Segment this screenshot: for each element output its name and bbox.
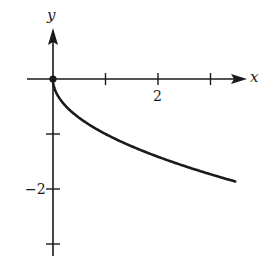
function-graph: [0, 0, 270, 265]
x-tick-label-2: 2: [153, 89, 162, 103]
curve-neg-sqrt: [53, 79, 235, 181]
x-axis-label: x: [250, 70, 258, 85]
y-tick-label-neg2: −2: [25, 182, 46, 196]
y-axis: [46, 28, 60, 256]
y-axis-label: y: [47, 8, 55, 23]
x-axis: [27, 73, 247, 85]
origin-point: [49, 75, 56, 82]
